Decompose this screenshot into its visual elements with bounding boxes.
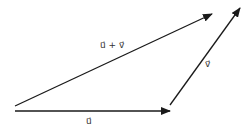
vector-sum-arrow	[15, 14, 212, 106]
label-u: u⃗	[86, 116, 92, 126]
label-u-plus-v: u⃗ + v⃗	[100, 40, 125, 50]
label-v: v⃗	[205, 59, 211, 69]
vector-addition-diagram: u⃗ v⃗ u⃗ + v⃗	[0, 0, 251, 132]
vector-v-arrow	[170, 8, 240, 105]
